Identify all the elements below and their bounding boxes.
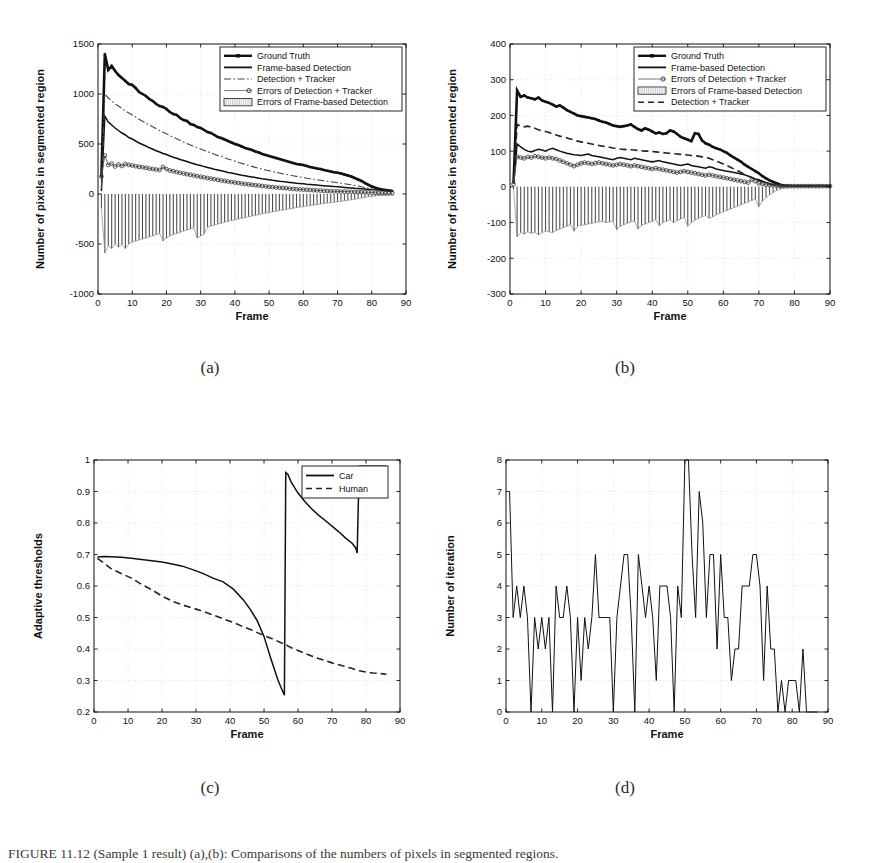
svg-text:0.3: 0.3 [77,675,90,686]
svg-text:Errors of Detection + Tracker: Errors of Detection + Tracker [671,74,786,84]
svg-text:60: 60 [293,715,304,726]
svg-text:10: 10 [536,715,547,726]
svg-text:0.6: 0.6 [77,580,90,591]
svg-text:1: 1 [85,454,90,465]
svg-text:Frame: Frame [230,728,263,740]
svg-text:5: 5 [497,549,502,560]
svg-text:60: 60 [715,715,726,726]
svg-text:80: 80 [366,297,377,308]
svg-text:70: 70 [751,715,762,726]
svg-text:300: 300 [490,74,506,85]
svg-text:100: 100 [490,146,506,157]
svg-text:0: 0 [501,181,506,192]
chart-svg-c: 01020304050607080900.20.30.40.50.60.70.8… [28,438,428,763]
svg-text:80: 80 [361,715,372,726]
svg-text:Human: Human [339,484,368,494]
svg-text:0: 0 [95,297,100,308]
svg-text:50: 50 [259,715,270,726]
svg-text:0.5: 0.5 [77,612,90,623]
svg-text:Frame: Frame [653,310,686,322]
svg-text:Errors of Frame-based Detectio: Errors of Frame-based Detection [257,97,388,107]
svg-text:1000: 1000 [73,88,94,99]
svg-text:10: 10 [123,715,134,726]
svg-text:40: 40 [644,715,655,726]
svg-text:Frame-based Detection: Frame-based Detection [257,63,351,73]
svg-text:90: 90 [401,297,412,308]
svg-text:Errors of Detection + Tracker: Errors of Detection + Tracker [257,86,372,96]
svg-text:10: 10 [540,297,551,308]
chart-panel-c: 01020304050607080900.20.30.40.50.60.70.8… [28,438,428,763]
svg-text:4: 4 [497,580,502,591]
subfigure-label-c: (c) [150,778,270,798]
svg-text:80: 80 [787,715,798,726]
svg-text:70: 70 [754,297,765,308]
svg-text:-100: -100 [487,217,506,228]
svg-text:30: 30 [608,715,619,726]
svg-text:0: 0 [91,715,96,726]
svg-text:60: 60 [718,297,729,308]
svg-text:Ground Truth: Ground Truth [257,51,310,61]
svg-text:Number of iteration: Number of iteration [444,535,456,637]
svg-text:40: 40 [225,715,236,726]
svg-text:40: 40 [230,297,241,308]
chart-panel-b: 0102030405060708090-300-200-100010020030… [440,22,850,342]
svg-text:8: 8 [497,454,502,465]
subfigure-label-b: (b) [565,358,685,378]
chart-svg-d: 0102030405060708090012345678FrameNumber … [440,438,850,763]
svg-text:-200: -200 [487,253,506,264]
svg-text:Detection + Tracker: Detection + Tracker [671,97,749,107]
svg-text:Frame: Frame [650,728,683,740]
svg-text:Adaptive thresholds: Adaptive thresholds [32,533,44,639]
svg-text:Frame: Frame [235,310,268,322]
svg-text:0.4: 0.4 [77,643,90,654]
svg-text:0: 0 [503,715,508,726]
svg-text:20: 20 [576,297,587,308]
svg-text:Car: Car [339,471,354,481]
svg-text:Detection + Tracker: Detection + Tracker [257,74,335,84]
figure-caption: FIGURE 11.12 (Sample 1 result) (a),(b): … [8,846,868,863]
chart-panel-d: 0102030405060708090012345678FrameNumber … [440,438,850,763]
svg-text:Frame-based Detection: Frame-based Detection [671,63,765,73]
svg-text:200: 200 [490,110,506,121]
svg-text:80: 80 [789,297,800,308]
svg-text:50: 50 [264,297,275,308]
svg-text:400: 400 [490,38,506,49]
svg-text:0: 0 [507,297,512,308]
svg-text:20: 20 [572,715,583,726]
svg-text:500: 500 [78,138,94,149]
svg-text:-500: -500 [75,238,94,249]
svg-text:20: 20 [161,297,172,308]
svg-text:90: 90 [825,297,836,308]
chart-svg-b: 0102030405060708090-300-200-100010020030… [440,22,850,342]
subfigure-label-d: (d) [565,778,685,798]
svg-text:7: 7 [497,486,502,497]
svg-text:30: 30 [195,297,206,308]
svg-text:6: 6 [497,517,502,528]
svg-text:40: 40 [647,297,658,308]
svg-text:Ground Truth: Ground Truth [671,51,724,61]
svg-text:0: 0 [497,706,502,717]
svg-text:0.7: 0.7 [77,549,90,560]
chart-svg-a: 0102030405060708090-1000-500050010001500… [28,22,428,342]
svg-text:10: 10 [127,297,138,308]
svg-text:30: 30 [611,297,622,308]
svg-text:0.2: 0.2 [77,706,90,717]
svg-text:Number of pixels in segmented: Number of pixels in segmented region [446,69,458,269]
svg-text:70: 70 [327,715,338,726]
svg-text:-300: -300 [487,288,506,299]
subfigure-label-a: (a) [150,358,270,378]
svg-text:50: 50 [682,297,693,308]
svg-text:-1000: -1000 [70,288,94,299]
svg-text:60: 60 [298,297,309,308]
svg-text:90: 90 [823,715,834,726]
svg-text:2: 2 [497,643,502,654]
chart-panel-a: 0102030405060708090-1000-500050010001500… [28,22,428,342]
svg-text:0: 0 [89,188,94,199]
svg-text:70: 70 [332,297,343,308]
svg-text:30: 30 [191,715,202,726]
svg-text:0.8: 0.8 [77,517,90,528]
svg-text:0.9: 0.9 [77,486,90,497]
svg-text:1500: 1500 [73,38,94,49]
svg-text:3: 3 [497,612,502,623]
svg-text:1: 1 [497,675,502,686]
